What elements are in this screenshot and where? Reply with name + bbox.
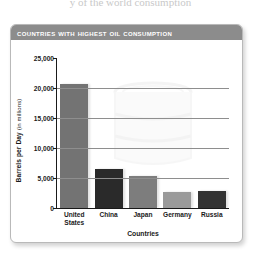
chart-title: Countries with Highest Oil Consumption <box>11 25 242 40</box>
x-axis-line <box>56 208 229 209</box>
y-axis-title-unit: (in millions) <box>17 98 23 130</box>
plot-area: Barrels per Day (in millions) 05,00010,0… <box>11 40 243 243</box>
bar <box>198 191 226 208</box>
bar <box>60 84 88 208</box>
axes <box>57 58 229 208</box>
bar-slot <box>57 58 91 208</box>
gridline <box>57 178 229 179</box>
y-axis-tick-labels: 05,00010,00015,00020,00025,000 <box>23 40 57 208</box>
bar-slot <box>195 58 229 208</box>
gridline <box>57 118 229 119</box>
bar-slot <box>91 58 125 208</box>
chart-panel: Countries with Highest Oil Consumption B… <box>10 24 243 243</box>
y-tick-mark <box>53 208 57 209</box>
y-axis-title-main: Barrels per Day <box>16 132 23 182</box>
bar <box>163 192 191 208</box>
y-tick-label: 15,000 <box>34 115 54 122</box>
bar-slot <box>160 58 194 208</box>
bar <box>129 176 157 208</box>
y-tick-label: 5,000 <box>37 175 54 182</box>
y-tick-label: 25,000 <box>34 55 54 62</box>
bar-series <box>57 58 229 208</box>
page-top-caption: y of the world consumption <box>0 0 261 8</box>
y-tick-label: 20,000 <box>34 85 54 92</box>
y-tick-label: 10,000 <box>34 145 54 152</box>
bar <box>95 169 123 208</box>
y-tick-mark <box>53 58 57 59</box>
gridline <box>57 88 229 89</box>
x-axis-title: Countries <box>57 230 229 237</box>
gridline <box>57 148 229 149</box>
bar-slot <box>126 58 160 208</box>
